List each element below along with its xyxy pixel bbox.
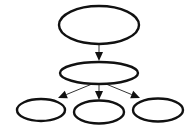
tree-diagram bbox=[0, 0, 194, 128]
edge-middle-to-center bbox=[95, 84, 103, 100]
edge-middle-to-left bbox=[58, 84, 92, 98]
node-middle bbox=[60, 62, 138, 84]
edge-line bbox=[106, 84, 132, 95]
edge-line bbox=[66, 84, 92, 95]
edge-root-to-middle bbox=[95, 44, 103, 61]
node-root bbox=[59, 6, 139, 44]
arrowhead-icon bbox=[95, 52, 103, 61]
node-left bbox=[17, 99, 65, 121]
node-center bbox=[74, 101, 124, 124]
nodes-group bbox=[17, 6, 183, 124]
node-right bbox=[133, 99, 183, 122]
edge-middle-to-right bbox=[106, 84, 140, 98]
arrowhead-icon bbox=[95, 91, 103, 100]
